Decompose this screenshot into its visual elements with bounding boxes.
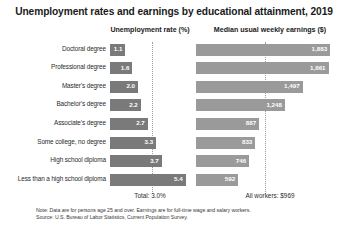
chart-row: Less than a high school diploma5.4592 xyxy=(0,172,348,191)
earnings-value-label: 746 xyxy=(236,157,246,164)
earnings-value-label: 833 xyxy=(242,138,252,145)
chart-row: Associate's degree2.7887 xyxy=(0,116,348,135)
earnings-value-label: 1,861 xyxy=(310,64,325,71)
unemployment-value-label: 1.1 xyxy=(114,45,123,52)
unemployment-value-label: 3.7 xyxy=(150,157,159,164)
earnings-bar: 833 xyxy=(196,137,255,149)
earnings-bar: 1,497 xyxy=(196,81,303,93)
unemployment-bar: 5.4 xyxy=(110,174,186,186)
chart-row: Professional degree1.61,861 xyxy=(0,61,348,80)
unemployment-value-label: 1.6 xyxy=(121,64,130,71)
category-label: Less than a high school diploma xyxy=(2,175,106,182)
category-label: Master's degree xyxy=(2,82,106,89)
unemployment-bar: 1.1 xyxy=(110,44,125,56)
earnings-bar: 1,248 xyxy=(196,99,285,111)
unemployment-value-label: 3.3 xyxy=(145,138,154,145)
unemployment-value-label: 2.7 xyxy=(136,119,145,126)
earnings-value-label: 1,497 xyxy=(284,82,299,89)
unemployment-value-label: 2.2 xyxy=(129,101,138,108)
total-unemployment-label: Total: 3.0% xyxy=(108,192,192,199)
earnings-bar: 746 xyxy=(196,155,249,167)
category-label: Professional degree xyxy=(2,63,106,70)
earnings-bar: 887 xyxy=(196,118,259,130)
category-label: Some college, no degree xyxy=(2,138,106,145)
unemployment-bar: 2.7 xyxy=(110,118,148,130)
chart-row: Doctoral degree1.11,883 xyxy=(0,42,348,61)
earnings-bar: 592 xyxy=(196,174,238,186)
unemployment-bar: 3.7 xyxy=(110,155,162,167)
chart-row: Bachelor's degree2.21,248 xyxy=(0,98,348,117)
earnings-value-label: 1,248 xyxy=(266,101,281,108)
unemployment-bar: 1.6 xyxy=(110,62,132,74)
column-header-earnings: Median usual weekly earnings ($) xyxy=(196,26,344,34)
unemployment-bar: 2.2 xyxy=(110,99,141,111)
unemployment-bar: 3.3 xyxy=(110,137,156,149)
chart-container: Unemployment rates and earnings by educa… xyxy=(0,0,348,226)
unemployment-bar: 2.0 xyxy=(110,81,138,93)
chart-row: Some college, no degree3.3833 xyxy=(0,135,348,154)
earnings-value-label: 887 xyxy=(246,119,256,126)
category-label: Bachelor's degree xyxy=(2,100,106,107)
chart-row: Master's degree2.01,497 xyxy=(0,79,348,98)
column-header-unemployment: Unemployment rate (%) xyxy=(108,26,192,34)
all-workers-earnings-label: All workers: $969 xyxy=(196,192,344,199)
category-label: Doctoral degree xyxy=(2,45,106,52)
unemployment-value-label: 5.4 xyxy=(174,175,183,182)
earnings-bar: 1,883 xyxy=(196,44,330,56)
unemployment-value-label: 2.0 xyxy=(126,82,135,89)
plot-area: Doctoral degree1.11,883Professional degr… xyxy=(0,42,348,190)
category-label: High school diploma xyxy=(2,156,106,163)
category-label: Associate's degree xyxy=(2,119,106,126)
chart-note: Note: Data are for persons age 25 and ov… xyxy=(36,207,251,213)
chart-source: Source: U.S. Bureau of Labor Statistics,… xyxy=(36,214,188,220)
chart-title: Unemployment rates and earnings by educa… xyxy=(0,6,348,17)
earnings-value-label: 592 xyxy=(225,175,235,182)
earnings-value-label: 1,883 xyxy=(312,45,327,52)
earnings-bar: 1,861 xyxy=(196,62,329,74)
chart-row: High school diploma3.7746 xyxy=(0,154,348,173)
